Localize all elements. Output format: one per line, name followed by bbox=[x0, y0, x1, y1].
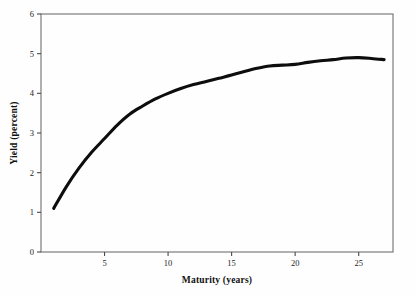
series-line-yield bbox=[54, 58, 384, 209]
y-tick-label: 6 bbox=[30, 9, 34, 19]
y-axis-title: Yield (percent) bbox=[9, 101, 20, 164]
yield-curve-chart: 0123456 510152025 Maturity (years) Yield… bbox=[0, 0, 416, 295]
y-tick-label: 0 bbox=[30, 247, 34, 257]
chart-figure: 0123456 510152025 Maturity (years) Yield… bbox=[0, 0, 416, 295]
y-tick-label: 4 bbox=[30, 88, 35, 98]
y-tick-label: 3 bbox=[30, 128, 34, 138]
y-tick-label: 5 bbox=[30, 49, 34, 59]
x-tick-label: 20 bbox=[291, 258, 300, 268]
x-axis-tick-labels: 510152025 bbox=[102, 258, 363, 268]
data-series-group bbox=[54, 58, 384, 209]
x-tick-label: 5 bbox=[102, 258, 106, 268]
y-axis-tick-labels: 0123456 bbox=[30, 9, 35, 257]
x-tick-label: 15 bbox=[227, 258, 236, 268]
y-tick-label: 1 bbox=[30, 207, 34, 217]
x-axis-ticks bbox=[105, 252, 359, 256]
plot-frame bbox=[41, 14, 393, 252]
y-axis-ticks bbox=[37, 14, 41, 252]
y-tick-label: 2 bbox=[30, 168, 34, 178]
x-tick-label: 10 bbox=[164, 258, 173, 268]
x-axis-title: Maturity (years) bbox=[182, 275, 252, 286]
x-tick-label: 25 bbox=[354, 258, 363, 268]
